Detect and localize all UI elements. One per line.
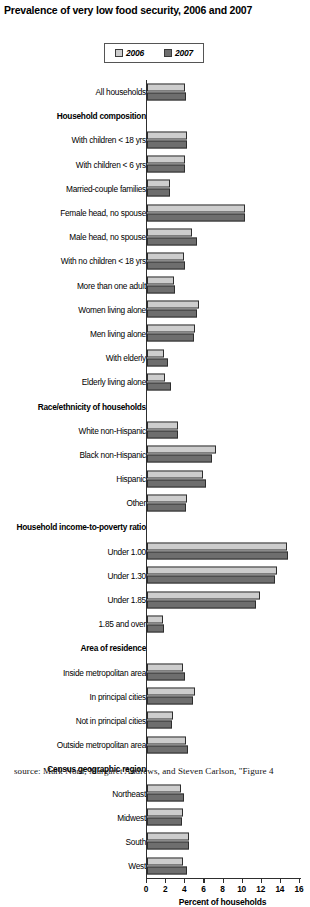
- chart-bar-2006: [147, 301, 199, 309]
- page-title: Prevalence of very low food security, 20…: [4, 4, 306, 16]
- chart-row: Elderly living alone: [0, 370, 310, 394]
- chart-row: West: [0, 854, 310, 878]
- chart-row: Other: [0, 491, 310, 515]
- chart-row-bars: [147, 470, 307, 489]
- chart-plot-area: All householdsHousehold compositionWith …: [0, 80, 310, 722]
- chart-bar-2007: [147, 261, 185, 269]
- chart-bar-2006: [147, 83, 185, 91]
- chart-row-label: Black non-Hispanic: [79, 450, 146, 460]
- chart-row: All households: [0, 80, 310, 104]
- chart-bar-2007: [147, 745, 188, 753]
- chart-bar-2006: [147, 204, 245, 212]
- chart-bar-2007: [147, 286, 175, 294]
- chart-bar-2007: [147, 794, 184, 802]
- chart-row-label: Under 1.30: [107, 571, 146, 581]
- chart-row-label: With children < 6 yrs: [76, 160, 146, 170]
- chart-row-bars: [147, 566, 307, 585]
- source-note: source: Mark Nord, Margaret Andrews, and…: [14, 766, 310, 776]
- x-axis-tick: [184, 879, 185, 883]
- chart-bar-2006: [147, 228, 192, 236]
- chart-row: With no children < 18 yrs: [0, 249, 310, 273]
- chart-bar-2007: [147, 721, 172, 729]
- x-axis-tick-label: 8: [215, 884, 231, 894]
- chart-row-bars: [147, 179, 307, 198]
- chart-bar-2007: [147, 165, 185, 173]
- chart-group-header: Household composition: [0, 104, 310, 128]
- chart-row-bars: [147, 373, 307, 392]
- chart-row-bars: [147, 349, 307, 368]
- chart-bar-2007: [147, 842, 189, 850]
- chart-row-bars: [147, 155, 307, 174]
- chart-row: Black non-Hispanic: [0, 443, 310, 467]
- chart-row-label: With elderly: [106, 353, 146, 363]
- chart-row-label: Under 1.85: [107, 595, 146, 605]
- chart-bar-2006: [147, 809, 183, 817]
- chart-row: Under 1.00: [0, 540, 310, 564]
- chart-row-bars: [147, 687, 307, 706]
- chart-row-label: Household income-to-poverty ratio: [16, 522, 146, 532]
- chart-row-bars: [147, 252, 307, 271]
- chart-row: With children < 6 yrs: [0, 153, 310, 177]
- chart-bar-2006: [147, 785, 181, 793]
- chart-row: Under 1.30: [0, 564, 310, 588]
- chart-row-bars: [147, 639, 307, 658]
- x-axis-tick: [242, 879, 243, 883]
- x-axis-tick-label: 2: [157, 884, 173, 894]
- chart-bar-2007: [147, 382, 171, 390]
- chart-bar-2007: [147, 213, 245, 221]
- chart-row-bars: [147, 445, 307, 464]
- x-axis-title: Percent of households: [138, 897, 308, 907]
- chart-row-label: West: [128, 861, 146, 871]
- chart-bar-2006: [147, 156, 185, 164]
- chart-legend: 2006 2007: [104, 43, 204, 63]
- chart-row-bars: [147, 276, 307, 295]
- chart-bar-2006: [147, 664, 183, 672]
- chart-bar-2006: [147, 543, 287, 551]
- chart-row-bars: [147, 736, 307, 755]
- chart-row-bars: [147, 107, 307, 126]
- chart-bar-2007: [147, 358, 168, 366]
- chart-bar-2006: [147, 131, 187, 139]
- chart-bar-2006: [147, 277, 174, 285]
- chart-row-label: Under 1.00: [107, 547, 146, 557]
- chart-row-bars: [147, 518, 307, 537]
- chart-row: More than one adult: [0, 274, 310, 298]
- chart-row-bars: [147, 421, 307, 440]
- chart-row-bars: [147, 494, 307, 513]
- chart-row-bars: [147, 832, 307, 851]
- chart-bar-2006: [147, 422, 178, 430]
- chart-row-bars: [147, 808, 307, 827]
- chart-bar-2006: [147, 180, 170, 188]
- chart-bar-2007: [147, 697, 193, 705]
- chart-bar-2007: [147, 479, 206, 487]
- chart-row-label: Elderly living alone: [82, 377, 146, 387]
- chart-row-label: White non-Hispanic: [79, 426, 146, 436]
- legend-entry-2007: 2007: [164, 48, 193, 58]
- chart-row-label: All households: [96, 87, 146, 97]
- chart-bar-2007: [147, 600, 256, 608]
- chart-row-bars: [147, 615, 307, 634]
- chart-row-label: Men living alone: [90, 329, 146, 339]
- chart-row-label: Hispanic: [116, 474, 146, 484]
- chart-row-bars: [147, 663, 307, 682]
- chart-row-label: Midwest: [117, 813, 146, 823]
- chart-bar-2007: [147, 552, 288, 560]
- chart-group-header: Household income-to-poverty ratio: [0, 515, 310, 539]
- chart-bar-2007: [147, 310, 197, 318]
- chart-group-header: Area of residence: [0, 636, 310, 660]
- chart-rows: All householdsHousehold compositionWith …: [0, 80, 310, 878]
- chart-bar-2006: [147, 252, 184, 260]
- chart-bar-2006: [147, 833, 189, 841]
- chart-row-label: Household composition: [57, 111, 146, 121]
- x-axis-tick-label: 10: [234, 884, 250, 894]
- chart-row-label: Women living alone: [78, 305, 146, 315]
- chart-row-label: South: [126, 837, 146, 847]
- chart-row-bars: [147, 300, 307, 319]
- chart-row: Female head, no spouse: [0, 201, 310, 225]
- chart-bar-2006: [147, 494, 187, 502]
- chart-bar-2007: [147, 818, 182, 826]
- chart-bar-2007: [147, 866, 187, 874]
- chart-row-bars: [147, 228, 307, 247]
- legend-entry-2006: 2006: [115, 48, 144, 58]
- chart-row: With children < 18 yrs: [0, 128, 310, 152]
